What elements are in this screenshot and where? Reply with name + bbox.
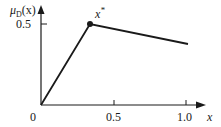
x-axis-label: x — [206, 110, 213, 124]
membership-curve — [41, 24, 188, 105]
y-tick-label-0.5: 0.5 — [16, 17, 31, 31]
x-tick-label-1.0: 1.0 — [177, 110, 192, 124]
x-axis-arrow-icon — [196, 102, 206, 109]
membership-function-chart: μD(x) 0.5 x* 0 0.5 1.0 x — [0, 0, 221, 127]
origin-label: 0 — [30, 110, 36, 124]
peak-marker — [87, 21, 93, 27]
y-axis-arrow-icon — [38, 5, 45, 14]
x-tick-label-0.5: 0.5 — [106, 110, 121, 124]
peak-label: x* — [94, 5, 105, 21]
